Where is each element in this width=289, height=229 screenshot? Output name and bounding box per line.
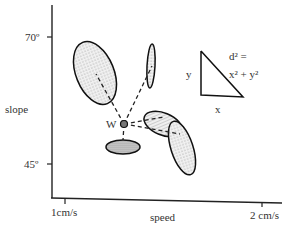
triangle-side-x-label: x — [215, 103, 221, 115]
diagram-canvas: 70º 45º slope 1cm/s 2 cm/s speed W y x d… — [0, 0, 289, 229]
y-tick-label-45: 45º — [24, 158, 39, 170]
x-axis — [51, 198, 282, 207]
y-tick-label-70: 70º — [25, 31, 40, 43]
ellipse-upper-left — [65, 35, 125, 110]
ellipse-lower — [106, 140, 140, 154]
center-point-marker — [121, 121, 128, 128]
x-tick-label-1: 1cm/s — [51, 206, 77, 218]
diagram-svg: 70º 45º slope 1cm/s 2 cm/s speed W y x d… — [0, 0, 289, 229]
triangle-side-y-label: y — [186, 68, 192, 80]
ellipse-upper-thin — [146, 44, 156, 88]
x-tick-label-2: 2 cm/s — [250, 209, 279, 221]
ellipse-right-tall — [163, 118, 201, 178]
equation-line-1: d² = — [229, 50, 247, 62]
y-axis-label: slope — [5, 103, 28, 115]
y-axis — [47, 5, 52, 198]
x-axis-label: speed — [150, 211, 176, 223]
center-point-label: W — [106, 118, 117, 130]
distance-legend: y x d² = x² + y² — [186, 50, 259, 115]
equation-line-2: x² + y² — [229, 68, 259, 80]
